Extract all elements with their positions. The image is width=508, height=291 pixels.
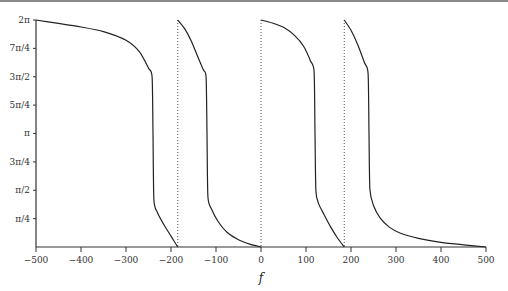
x-tick-label: −100 bbox=[204, 255, 229, 265]
x-tick-label: −200 bbox=[159, 255, 184, 265]
y-axis-ticks: π/4π/23π/4π5π/43π/27π/42π bbox=[10, 15, 36, 224]
x-axis-label: f bbox=[258, 271, 266, 285]
x-tick-label: −500 bbox=[24, 255, 49, 265]
x-tick-label: 0 bbox=[258, 255, 264, 265]
y-tick-label: π/2 bbox=[15, 185, 30, 195]
y-tick-label: π bbox=[24, 128, 30, 138]
x-tick-label: 400 bbox=[432, 255, 449, 265]
y-tick-label: 2π bbox=[18, 15, 30, 25]
y-tick-label: 7π/4 bbox=[10, 43, 31, 53]
x-tick-label: −400 bbox=[69, 255, 94, 265]
series-curve-branch-2 bbox=[178, 20, 261, 247]
y-tick-label: 3π/2 bbox=[10, 72, 30, 82]
x-tick-label: −300 bbox=[114, 255, 139, 265]
x-axis-ticks: −500−400−300−200−1000100200300400500 bbox=[24, 247, 495, 265]
series-curve-branch-1 bbox=[36, 20, 178, 247]
x-tick-label: 300 bbox=[387, 255, 404, 265]
y-tick-label: π/4 bbox=[15, 214, 30, 224]
series-curve-branch-3 bbox=[261, 20, 344, 247]
y-tick-label: 5π/4 bbox=[10, 100, 31, 110]
series-curve-branch-4 bbox=[344, 20, 486, 247]
x-tick-label: 100 bbox=[297, 255, 314, 265]
y-tick-label: 3π/4 bbox=[10, 157, 31, 167]
x-tick-label: 500 bbox=[477, 255, 494, 265]
phase-chart: −500−400−300−200−1000100200300400500 π/4… bbox=[0, 0, 508, 291]
vertical-dotted-lines bbox=[178, 20, 345, 247]
x-tick-label: 200 bbox=[342, 255, 359, 265]
